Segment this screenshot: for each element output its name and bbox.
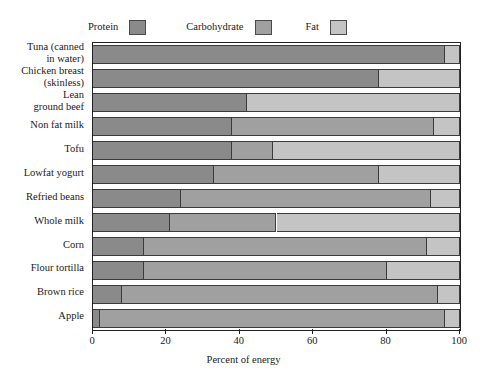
- plot-area: [92, 42, 461, 331]
- y-axis-label: Lowfat yogurt: [24, 167, 84, 179]
- y-axis-label: Chicken breast (skinless): [21, 65, 84, 88]
- bar-row: [93, 285, 460, 304]
- bars-layer: [93, 43, 460, 330]
- bar-segment-protein: [93, 117, 232, 136]
- bar-segment-fat: [427, 237, 460, 256]
- bar-segment-fat: [431, 189, 460, 208]
- bar-segment-carbohydrate: [170, 213, 276, 232]
- y-axis-label: Tofu: [64, 143, 84, 155]
- bar-segment-carbohydrate: [100, 309, 445, 328]
- legend-label-carbohydrate: Carbohydrate: [186, 22, 243, 33]
- bar-segment-carbohydrate: [181, 189, 431, 208]
- bar-segment-fat: [277, 213, 461, 232]
- y-axis-label: Brown rice: [37, 286, 84, 298]
- legend-swatch-fat: [330, 20, 347, 35]
- y-axis-label: Tuna (canned in water): [27, 41, 84, 64]
- x-axis-tick-labels: 020406080100: [92, 334, 459, 350]
- bar-row: [93, 165, 460, 184]
- bar-row: [93, 93, 460, 112]
- bar-row: [93, 45, 460, 64]
- y-axis-label: Non fat milk: [30, 119, 84, 131]
- bar-row: [93, 213, 460, 232]
- bar-segment-carbohydrate: [122, 285, 438, 304]
- bar-segment-fat: [387, 261, 460, 280]
- bar-row: [93, 189, 460, 208]
- bar-segment-carbohydrate: [214, 165, 379, 184]
- bar-segment-fat: [273, 141, 460, 160]
- bar-segment-fat: [247, 93, 460, 112]
- bar-row: [93, 237, 460, 256]
- bar-segment-fat: [379, 165, 460, 184]
- bar-segment-carbohydrate: [232, 117, 434, 136]
- bar-row: [93, 117, 460, 136]
- legend-swatch-protein: [129, 20, 146, 35]
- bar-segment-protein: [93, 45, 445, 64]
- bar-segment-carbohydrate: [144, 261, 386, 280]
- bar-segment-protein: [93, 285, 122, 304]
- y-axis-label: Lean ground beef: [28, 89, 84, 112]
- bar-segment-carbohydrate: [232, 141, 272, 160]
- bar-row: [93, 141, 460, 160]
- bar-segment-protein: [93, 69, 379, 88]
- y-axis-labels: Tuna (canned in water)Chicken breast (sk…: [0, 42, 88, 329]
- legend-label-fat: Fat: [306, 22, 319, 33]
- bar-segment-fat: [445, 309, 460, 328]
- y-axis-label: Whole milk: [34, 215, 84, 227]
- bar-segment-protein: [93, 93, 247, 112]
- y-axis-label: Refried beans: [26, 191, 84, 203]
- bar-segment-fat: [379, 69, 460, 88]
- x-axis-tick-label: 20: [160, 334, 171, 347]
- x-axis-tick-label: 80: [380, 334, 391, 347]
- x-axis-title: Percent of energy: [0, 354, 487, 365]
- bar-segment-fat: [434, 117, 460, 136]
- bar-segment-protein: [93, 261, 144, 280]
- legend-entry-fat: Fat: [306, 20, 347, 35]
- x-axis-tick-label: 0: [89, 334, 94, 347]
- x-axis-tick-label: 100: [451, 334, 467, 347]
- y-axis-label: Flour tortilla: [31, 262, 84, 274]
- chart-legend: Protein Carbohydrate Fat: [88, 16, 388, 38]
- bar-row: [93, 69, 460, 88]
- bar-segment-protein: [93, 237, 144, 256]
- stacked-bar-chart: Protein Carbohydrate Fat Tuna (canned in…: [0, 0, 487, 376]
- bar-segment-protein: [93, 309, 100, 328]
- bar-segment-carbohydrate: [144, 237, 427, 256]
- bar-segment-protein: [93, 165, 214, 184]
- x-axis-tick-label: 40: [234, 334, 245, 347]
- bar-segment-fat: [445, 45, 460, 64]
- legend-label-protein: Protein: [88, 22, 118, 33]
- bar-segment-protein: [93, 141, 232, 160]
- x-axis-tick-label: 60: [307, 334, 318, 347]
- legend-entry-carbohydrate: Carbohydrate: [186, 20, 271, 35]
- y-axis-label: Apple: [58, 310, 84, 322]
- bar-row: [93, 309, 460, 328]
- y-axis-label: Corn: [63, 239, 84, 251]
- bar-segment-protein: [93, 213, 170, 232]
- legend-swatch-carbohydrate: [255, 20, 272, 35]
- bar-row: [93, 261, 460, 280]
- bar-segment-fat: [438, 285, 460, 304]
- bar-segment-protein: [93, 189, 181, 208]
- legend-entry-protein: Protein: [88, 20, 146, 35]
